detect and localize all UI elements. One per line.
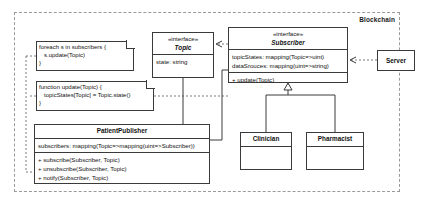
stereotype-label: «interface» bbox=[232, 30, 344, 39]
uml-class-diagram: Blockchain Subscriber (dashed dependency… bbox=[0, 0, 425, 202]
class-box-clinician[interactable]: Clinician bbox=[240, 132, 292, 170]
empty-compartment bbox=[244, 149, 288, 158]
attribute-topic-states: topicStates: mapping(Topic=>uint) bbox=[232, 52, 344, 61]
class-header-topic: «interface» Topic bbox=[153, 33, 213, 54]
class-header-patient-publisher: PatientPublisher bbox=[35, 125, 209, 138]
class-box-server[interactable]: Server bbox=[377, 50, 415, 71]
attribute-compartment-topic: state: string bbox=[153, 54, 213, 68]
package-label: Blockchain bbox=[359, 16, 395, 23]
note-update-text: function update(Topic) { topicStates[Top… bbox=[36, 81, 154, 108]
class-name-subscriber: Subscriber bbox=[232, 39, 344, 48]
empty-compartment bbox=[310, 149, 360, 158]
attribute-data-srouces: dataSrouces: mapping(uint=>string) bbox=[232, 61, 344, 70]
class-name-pharmacist: Pharmacist bbox=[310, 135, 360, 144]
attribute-compartment-patient-publisher: subscribers: mapping(Topic=>mapping(uint… bbox=[35, 138, 209, 152]
note-function-update: function update(Topic) { topicStates[Top… bbox=[36, 81, 154, 111]
class-box-subscriber[interactable]: «interface» Subscriber topicStates: mapp… bbox=[228, 27, 348, 83]
operation-subscribe: + subscribe(Subscriber, Topic) bbox=[38, 155, 206, 164]
operation-compartment-subscriber: + update(Topic) bbox=[229, 72, 347, 86]
class-box-patient-publisher[interactable]: PatientPublisher subscribers: mapping(To… bbox=[34, 124, 210, 184]
operation-notify: + notify(Subscriber, Topic) bbox=[38, 173, 206, 182]
class-name-clinician: Clinician bbox=[244, 135, 288, 144]
class-name-server: Server bbox=[386, 56, 406, 66]
stereotype-label: «interface» bbox=[156, 35, 210, 44]
attribute-subscribers: subscribers: mapping(Topic=>mapping(uint… bbox=[38, 141, 206, 150]
class-name-topic: Topic bbox=[156, 44, 210, 53]
class-name-patient-publisher: PatientPublisher bbox=[38, 127, 206, 136]
note-foreach-text: foreach s in subscribers { s.update(Topi… bbox=[36, 41, 134, 68]
note-foreach-subscribers: foreach s in subscribers { s.update(Topi… bbox=[36, 41, 134, 71]
class-header-pharmacist: Pharmacist bbox=[307, 133, 363, 146]
operation-unsubscribe: + unsubscribe(Subscriber, Topic) bbox=[38, 164, 206, 173]
attribute-compartment-subscriber: topicStates: mapping(Topic=>uint) dataSr… bbox=[229, 49, 347, 72]
class-header-subscriber: «interface» Subscriber bbox=[229, 28, 347, 49]
class-box-pharmacist[interactable]: Pharmacist bbox=[306, 132, 364, 170]
attribute-compartment-pharmacist bbox=[307, 146, 363, 160]
attribute-compartment-clinician bbox=[241, 146, 291, 160]
attribute-state: state: string bbox=[156, 57, 210, 66]
operation-update: + update(Topic) bbox=[232, 75, 344, 84]
class-box-topic[interactable]: «interface» Topic state: string bbox=[152, 32, 214, 78]
class-header-clinician: Clinician bbox=[241, 133, 291, 146]
operation-compartment-patient-publisher: + subscribe(Subscriber, Topic) + unsubsc… bbox=[35, 152, 209, 184]
